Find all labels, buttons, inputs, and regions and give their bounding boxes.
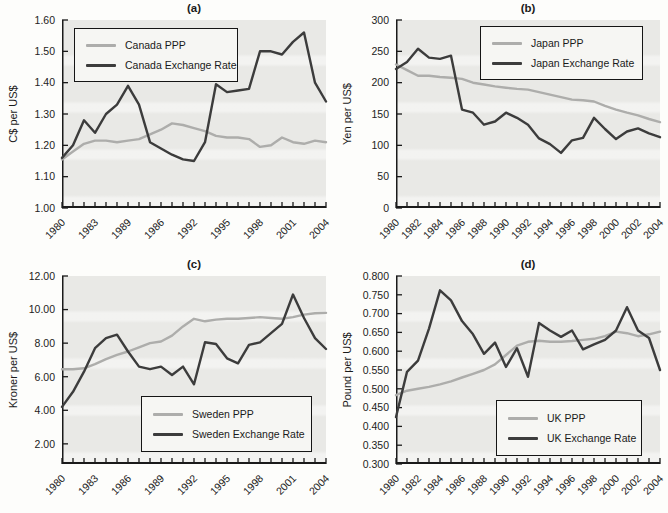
ppp-line-swatch bbox=[508, 417, 538, 420]
svg-text:2004: 2004 bbox=[640, 472, 665, 497]
svg-text:12.00: 12.00 bbox=[29, 270, 55, 282]
svg-text:1982: 1982 bbox=[398, 216, 423, 241]
svg-text:1984: 1984 bbox=[420, 472, 445, 497]
svg-text:0.400: 0.400 bbox=[363, 420, 389, 432]
svg-text:1989: 1989 bbox=[141, 472, 166, 497]
svg-text:2000: 2000 bbox=[596, 472, 621, 497]
legend-entry-exchange: UK Exchange Rate bbox=[508, 432, 637, 444]
svg-text:1990: 1990 bbox=[486, 216, 511, 241]
svg-text:0.750: 0.750 bbox=[363, 289, 389, 301]
svg-text:1.30: 1.30 bbox=[35, 108, 56, 120]
legend-label: Sweden Exchange Rate bbox=[192, 428, 305, 440]
svg-text:1995: 1995 bbox=[207, 216, 232, 241]
svg-text:1998: 1998 bbox=[574, 216, 599, 241]
svg-text:1996: 1996 bbox=[552, 216, 577, 241]
svg-text:0.700: 0.700 bbox=[363, 307, 389, 319]
legend-label: Sweden PPP bbox=[192, 408, 254, 420]
svg-text:1982: 1982 bbox=[398, 472, 423, 497]
panel-uk: (d) Pound per US$ 0.3000.3500.4000.4500.… bbox=[334, 256, 668, 513]
svg-text:1992: 1992 bbox=[174, 472, 199, 497]
exchange-line-swatch bbox=[153, 433, 183, 436]
svg-text:1.10: 1.10 bbox=[35, 170, 56, 182]
panel-canada: (a) C$ per US$ 1.001.101.201.301.401.501… bbox=[0, 0, 334, 256]
exchange-line-swatch bbox=[492, 62, 522, 65]
y-axis-label: Kroner per US$ bbox=[7, 332, 19, 408]
legend-label: Japan Exchange Rate bbox=[531, 57, 634, 69]
svg-text:1986: 1986 bbox=[141, 216, 166, 241]
panel-title: (d) bbox=[396, 258, 660, 270]
y-axis-label: Yen per US$ bbox=[341, 83, 353, 145]
svg-text:6.00: 6.00 bbox=[35, 371, 56, 383]
legend-entry-ppp: Sweden PPP bbox=[153, 408, 307, 420]
svg-text:250: 250 bbox=[371, 45, 389, 57]
svg-text:1980: 1980 bbox=[42, 472, 67, 497]
svg-text:1986: 1986 bbox=[108, 472, 133, 497]
svg-text:1990: 1990 bbox=[486, 472, 511, 497]
svg-text:8.00: 8.00 bbox=[35, 337, 56, 349]
svg-text:2004: 2004 bbox=[306, 472, 331, 497]
svg-text:1988: 1988 bbox=[464, 216, 489, 241]
legend-entry-exchange: Sweden Exchange Rate bbox=[153, 428, 307, 440]
svg-text:1994: 1994 bbox=[530, 472, 555, 497]
svg-text:1992: 1992 bbox=[508, 216, 533, 241]
svg-text:1986: 1986 bbox=[442, 216, 467, 241]
svg-text:200: 200 bbox=[371, 76, 389, 88]
svg-text:100: 100 bbox=[371, 139, 389, 151]
exchange-line-swatch bbox=[86, 64, 116, 67]
svg-text:2000: 2000 bbox=[596, 216, 621, 241]
ppp-line-swatch bbox=[153, 413, 183, 416]
svg-text:1.00: 1.00 bbox=[35, 202, 56, 214]
svg-text:2.00: 2.00 bbox=[35, 438, 56, 450]
svg-text:0.600: 0.600 bbox=[363, 345, 389, 357]
panel-title: (b) bbox=[396, 2, 660, 14]
svg-text:1.40: 1.40 bbox=[35, 76, 56, 88]
svg-text:1.20: 1.20 bbox=[35, 139, 56, 151]
svg-text:1992: 1992 bbox=[174, 216, 199, 241]
svg-text:2002: 2002 bbox=[618, 472, 643, 497]
ppp-line-swatch bbox=[86, 44, 116, 47]
legend: UK PPP UK Exchange Rate bbox=[496, 400, 642, 456]
legend-label: Japan PPP bbox=[531, 37, 584, 49]
legend: Canada PPP Canada Exchange Rate bbox=[74, 28, 238, 82]
legend-label: Canada PPP bbox=[125, 39, 186, 51]
svg-text:1.50: 1.50 bbox=[35, 45, 56, 57]
svg-text:1996: 1996 bbox=[552, 472, 577, 497]
legend-entry-exchange: Canada Exchange Rate bbox=[86, 59, 233, 71]
legend: Japan PPP Japan Exchange Rate bbox=[480, 26, 643, 80]
svg-text:50: 50 bbox=[377, 170, 389, 182]
panel-japan: (b) Yen per US$ 050100150200250300198019… bbox=[334, 0, 668, 256]
svg-text:0.450: 0.450 bbox=[363, 401, 389, 413]
svg-text:0.800: 0.800 bbox=[363, 270, 389, 282]
svg-text:2002: 2002 bbox=[618, 216, 643, 241]
exchange-line-swatch bbox=[508, 437, 538, 440]
ppp-line-swatch bbox=[492, 42, 522, 45]
legend-entry-ppp: UK PPP bbox=[508, 412, 637, 424]
svg-text:0.650: 0.650 bbox=[363, 326, 389, 338]
legend-entry-exchange: Japan Exchange Rate bbox=[492, 57, 638, 69]
svg-text:0.350: 0.350 bbox=[363, 439, 389, 451]
svg-text:1988: 1988 bbox=[464, 472, 489, 497]
legend: Sweden PPP Sweden Exchange Rate bbox=[141, 396, 312, 452]
svg-text:1983: 1983 bbox=[75, 216, 100, 241]
svg-text:1980: 1980 bbox=[376, 472, 401, 497]
y-axis-label: Pound per US$ bbox=[341, 332, 353, 407]
svg-text:0.550: 0.550 bbox=[363, 364, 389, 376]
svg-text:1998: 1998 bbox=[240, 216, 265, 241]
svg-text:0: 0 bbox=[383, 202, 389, 214]
ppp-exchange-rate-figure: (a) C$ per US$ 1.001.101.201.301.401.501… bbox=[0, 0, 668, 513]
panel-title: (a) bbox=[62, 2, 326, 14]
panel-title: (c) bbox=[62, 258, 326, 270]
svg-text:1995: 1995 bbox=[207, 472, 232, 497]
svg-text:1980: 1980 bbox=[376, 216, 401, 241]
svg-text:2004: 2004 bbox=[640, 216, 665, 241]
legend-label: UK Exchange Rate bbox=[547, 432, 636, 444]
svg-text:1989: 1989 bbox=[108, 216, 133, 241]
svg-text:1.60: 1.60 bbox=[35, 14, 56, 26]
panel-sweden: (c) Kroner per US$ 2.004.006.008.0010.00… bbox=[0, 256, 334, 513]
svg-text:1994: 1994 bbox=[530, 216, 555, 241]
legend-label: Canada Exchange Rate bbox=[125, 59, 237, 71]
svg-text:1980: 1980 bbox=[42, 216, 67, 241]
svg-text:1998: 1998 bbox=[574, 472, 599, 497]
svg-text:2001: 2001 bbox=[273, 472, 298, 497]
svg-text:1984: 1984 bbox=[420, 216, 445, 241]
